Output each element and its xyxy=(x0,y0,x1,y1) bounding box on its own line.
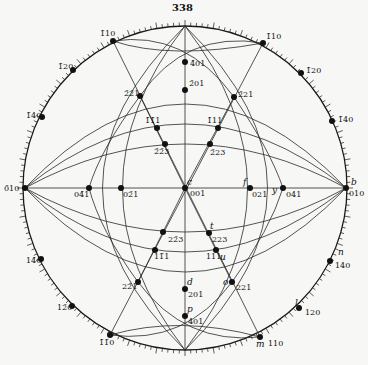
tick-mark xyxy=(289,59,293,64)
pole-label: 1̄20 xyxy=(58,63,73,71)
tick-mark xyxy=(337,131,343,133)
tick-mark xyxy=(309,292,314,296)
pole-dots xyxy=(22,38,349,340)
pole-label: 401 xyxy=(188,318,203,326)
pole-label: 02̄1 xyxy=(123,191,138,199)
pole-label: 041 xyxy=(286,191,301,199)
tick-mark xyxy=(325,104,330,107)
tick-mark xyxy=(40,269,45,272)
pole-label: 1̄1̄0 xyxy=(99,339,114,347)
tick-mark xyxy=(56,80,61,84)
pole-label: 1̄10 xyxy=(100,30,115,38)
tick-mark xyxy=(289,312,293,317)
zone-arc-221b-041 xyxy=(89,188,138,282)
pole-label: 021 xyxy=(252,191,267,199)
pole-label: 2̄01 xyxy=(189,80,204,88)
pole-label: 223 xyxy=(212,236,227,244)
pole-dot xyxy=(154,125,160,131)
pole-dot xyxy=(298,70,304,76)
tick-mark xyxy=(309,80,314,84)
tick-mark xyxy=(266,43,269,48)
pole-letter: u xyxy=(220,253,226,261)
pole-label: 11̄1 xyxy=(154,253,169,261)
pole-dot xyxy=(182,59,188,65)
pole-dot xyxy=(231,94,237,100)
pole-letter: y xyxy=(272,186,277,194)
tick-mark xyxy=(240,340,242,346)
pole-dot xyxy=(329,118,335,124)
pole-label: 1̄40 xyxy=(26,112,41,120)
pole-label: 0̄10 xyxy=(4,185,19,193)
pole-label: 2̄21 xyxy=(238,91,253,99)
pole-label: 2̄23 xyxy=(210,149,225,157)
pole-dot xyxy=(110,38,116,44)
pole-letter: d xyxy=(187,278,193,286)
tick-mark xyxy=(101,43,104,48)
zone-arc-221r-041 xyxy=(234,97,283,188)
pole-label: 14̄0 xyxy=(26,257,41,265)
pole-letter: f xyxy=(243,178,246,186)
tick-mark xyxy=(156,348,157,354)
pole-letter: p xyxy=(187,305,193,313)
pole-label: 22̄1 xyxy=(122,283,137,291)
pole-label: 001 xyxy=(190,190,205,198)
zone-arc-b-3 xyxy=(25,144,346,188)
zone-arc-b-4 xyxy=(25,188,346,272)
pole-label: 12̄0 xyxy=(57,304,72,312)
zone-arc-221-041 xyxy=(89,96,140,188)
tick-mark xyxy=(337,243,343,245)
zone-arc-top xyxy=(113,41,263,51)
pole-label: 010 xyxy=(349,190,364,198)
tick-mark xyxy=(156,23,157,29)
pole-label: 2̄2̄1 xyxy=(124,90,139,98)
tick-mark xyxy=(20,159,26,160)
pole-letter: b xyxy=(351,178,357,186)
pole-label: 140 xyxy=(335,262,350,270)
pole-letter: l xyxy=(295,299,298,307)
tick-mark xyxy=(40,104,45,107)
pole-label: 110 xyxy=(268,340,283,348)
zone-lines-c-221 xyxy=(140,96,234,188)
tick-mark xyxy=(266,328,269,333)
tick-mark xyxy=(345,159,351,160)
pole-label: 1̄1̄1 xyxy=(145,117,160,125)
tick-mark xyxy=(325,269,330,272)
tick-mark xyxy=(27,131,33,133)
pole-label: 120 xyxy=(305,309,320,317)
pole-dot xyxy=(207,141,213,147)
tick-mark xyxy=(20,216,26,217)
pole-label: 201 xyxy=(188,291,203,299)
zone-arc-b-2 xyxy=(25,124,346,188)
pole-label: 4̄01 xyxy=(190,60,205,68)
zone-arc-b-1 xyxy=(25,104,346,188)
pole-label: 1̄11 xyxy=(207,117,222,125)
tick-mark xyxy=(345,216,351,217)
pole-letter: m xyxy=(256,340,265,348)
tick-mark xyxy=(56,292,61,296)
tick-mark xyxy=(128,30,130,36)
tick-mark xyxy=(213,348,214,354)
pole-label: 04̄1 xyxy=(74,191,89,199)
pole-dot xyxy=(215,125,221,131)
pole-dot xyxy=(182,87,188,93)
pole-label: 1̄20 xyxy=(306,67,321,75)
pole-label: 111 xyxy=(206,253,221,261)
tick-mark xyxy=(213,23,214,29)
tick-mark xyxy=(27,243,33,245)
pole-dot xyxy=(22,185,28,191)
pole-dot xyxy=(160,229,166,235)
pole-dot xyxy=(327,258,333,264)
pole-letter: t xyxy=(210,222,214,230)
pole-label: 221 xyxy=(236,284,251,292)
pole-letter: n xyxy=(338,248,344,256)
tick-mark xyxy=(77,312,81,317)
tick-mark xyxy=(101,328,104,333)
pole-label: 1̄40 xyxy=(338,116,353,124)
stereographic-projection: 338 xyxy=(0,0,368,365)
pole-letter: o xyxy=(223,278,228,286)
tick-mark xyxy=(240,30,242,36)
tick-mark xyxy=(77,59,81,64)
zone-arc-221br-041 xyxy=(232,188,283,282)
pole-label: 2̄2̄3 xyxy=(154,148,169,156)
pole-letter: c xyxy=(187,178,192,186)
